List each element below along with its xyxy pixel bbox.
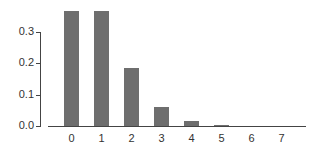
x-tick-label: 1 xyxy=(94,133,110,144)
x-tick-label: 2 xyxy=(124,133,140,144)
y-tick-mark xyxy=(36,32,41,33)
x-tick-label: 0 xyxy=(64,133,80,144)
y-tick-mark xyxy=(36,126,41,127)
bar-0 xyxy=(64,11,79,126)
y-tick-label: 0.0 xyxy=(4,120,34,131)
bar-1 xyxy=(94,11,109,126)
x-tick-label: 6 xyxy=(244,133,260,144)
bar-3 xyxy=(154,107,169,126)
y-tick-mark xyxy=(36,95,41,96)
bar-5 xyxy=(214,125,229,126)
y-tick-label: 0.3 xyxy=(4,26,34,37)
bar-4 xyxy=(184,121,199,126)
x-tick-label: 5 xyxy=(214,133,230,144)
bar-2 xyxy=(124,68,139,126)
y-tick-label: 0.2 xyxy=(4,57,34,68)
x-tick-label: 4 xyxy=(184,133,200,144)
y-tick-label: 0.1 xyxy=(4,89,34,100)
y-axis-line xyxy=(40,32,41,127)
x-tick-label: 7 xyxy=(274,133,290,144)
x-axis-line xyxy=(48,126,306,127)
bar-chart: 0.00.10.20.3 01234567 xyxy=(0,0,319,146)
x-tick-label: 3 xyxy=(154,133,170,144)
y-tick-mark xyxy=(36,63,41,64)
